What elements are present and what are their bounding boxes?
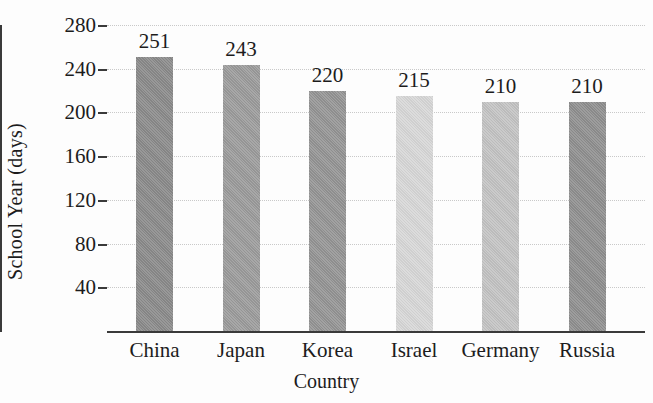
y-tick-mark (98, 200, 107, 202)
bar (482, 102, 519, 332)
y-tick-label: 80 (50, 233, 96, 254)
y-tick-label: 120 (50, 189, 96, 210)
bar-value-label: 210 (466, 76, 536, 97)
x-axis-spine (107, 331, 645, 333)
y-tick-label: 240 (50, 58, 96, 79)
y-tick-mark (98, 25, 107, 27)
bar (569, 102, 606, 332)
gridline (107, 244, 645, 245)
y-tick-label: 280 (50, 15, 96, 36)
y-tick-label: 40 (50, 277, 96, 298)
gridline (107, 200, 645, 201)
gridline (107, 69, 645, 70)
bar (309, 91, 346, 331)
bar-value-label: 215 (379, 70, 449, 91)
y-tick-mark (98, 287, 107, 289)
gridline (107, 25, 645, 26)
plot-area (107, 25, 645, 331)
gridline (107, 156, 645, 157)
bar-value-label: 220 (293, 65, 363, 86)
x-axis-title: Country (0, 370, 653, 393)
y-tick-mark (98, 112, 107, 114)
y-axis-spine (0, 25, 2, 332)
bar (396, 96, 433, 331)
gridline (107, 287, 645, 288)
bar-value-label: 251 (120, 31, 190, 52)
y-tick-mark (98, 244, 107, 246)
bar-value-label: 210 (552, 76, 622, 97)
y-tick-label: 200 (50, 102, 96, 123)
bar-value-label: 243 (206, 39, 276, 60)
y-tick-mark (98, 69, 107, 71)
bar (136, 57, 173, 331)
y-tick-mark (98, 156, 107, 158)
y-axis-title: School Year (days) (0, 0, 30, 403)
x-tick-label: Russia (527, 340, 647, 361)
bar (223, 65, 260, 331)
gridline (107, 112, 645, 113)
y-tick-label: 160 (50, 146, 96, 167)
bar-chart-figure: School Year (days) 2802402001601208040 2… (0, 0, 653, 403)
